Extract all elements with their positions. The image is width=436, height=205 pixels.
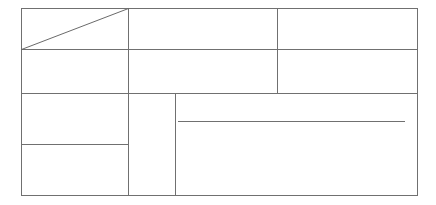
cell-narrow-column xyxy=(129,94,175,195)
table-diagram xyxy=(0,0,436,205)
cell-r1c3 xyxy=(278,9,417,49)
cell-r4c1 xyxy=(22,145,128,195)
cell-r2c2 xyxy=(129,50,277,93)
cell-r2c1 xyxy=(22,50,128,93)
cell-r1c1-diagonal-header xyxy=(22,9,128,49)
cell-r2c3 xyxy=(278,50,417,93)
cell-large-panel xyxy=(176,94,417,195)
cell-r1c2 xyxy=(129,9,277,49)
cell-r3c1 xyxy=(22,94,128,144)
